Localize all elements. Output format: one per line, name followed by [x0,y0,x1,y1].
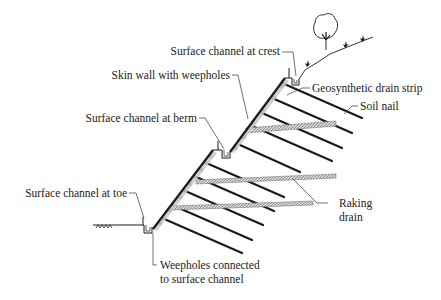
raking-drain-lower [172,201,313,210]
soil-nail-slope-diagram: Surface channel at crest Skin wall with … [0,0,441,300]
raking-drain-upper [246,121,336,133]
label-drain-strip: Geosynthetic drain strip [312,82,423,95]
label-raking-drain-1: Raking [339,197,372,210]
shrub-icons [305,35,366,67]
label-skin-wall: Skin wall with weepholes [112,69,231,82]
toe-channel [144,225,152,233]
skin-wall-upper [230,78,285,152]
label-berm-channel: Surface channel at berm [86,112,197,124]
label-weepholes-2: to surface channel [160,273,244,285]
crest-ground [299,37,373,79]
label-crest-channel: Surface channel at crest [170,45,280,57]
label-raking-drain-2: drain [339,211,363,223]
raking-drain-middle [196,174,336,184]
label-weepholes-1: Weepholes connected [160,259,260,272]
tree-icon [314,14,338,50]
label-soil-nail: Soil nail [360,100,399,112]
labels: Surface channel at crest Skin wall with … [25,45,423,285]
skin-wall-lower [153,150,213,229]
label-toe-channel: Surface channel at toe [25,187,127,199]
